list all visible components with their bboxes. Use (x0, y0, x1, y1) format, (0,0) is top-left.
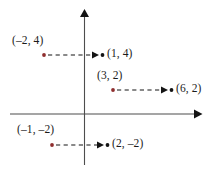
mapping-2-source-point (111, 88, 115, 92)
mapping-3-destination-point (106, 143, 110, 147)
mapping-1-source-label: (–2, 4) (12, 35, 43, 47)
mapping-2-group (111, 87, 173, 94)
mapping-3-destination-label: (2, –2) (112, 138, 143, 150)
x-axis-arrowhead-icon (194, 110, 203, 119)
mapping-2-destination-point (170, 88, 174, 92)
mapping-1-destination-point (101, 53, 105, 57)
y-axis-arrowhead-icon (80, 9, 89, 17)
mapping-3-arrowhead-icon (97, 142, 104, 149)
x-axis (10, 110, 203, 119)
mapping-2-destination-label: (6, 2) (176, 83, 202, 95)
y-axis (80, 9, 89, 165)
mapping-1-group (42, 52, 104, 59)
mapping-1-source-point (42, 53, 46, 57)
mapping-1-destination-label: (1, 4) (107, 48, 133, 60)
mapping-3-source-point (50, 143, 54, 147)
mapping-2-source-label: (3, 2) (97, 70, 123, 82)
mapping-3-source-label: (–1, –2) (17, 124, 54, 136)
mapping-1-arrowhead-icon (92, 52, 99, 59)
mapping-3-group (50, 142, 109, 149)
coordinate-plane-figure: (–2, 4) (1, 4) (3, 2) (6, 2) (–1, –2) (2… (0, 0, 213, 173)
mapping-2-arrowhead-icon (161, 87, 168, 94)
